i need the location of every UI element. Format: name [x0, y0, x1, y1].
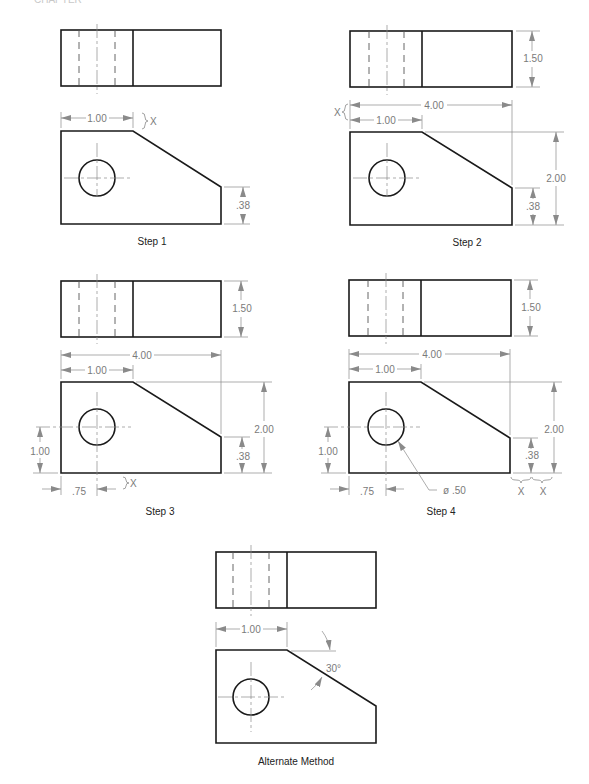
dim-hole-offset: .75: [360, 486, 374, 497]
panel-step1: 1.00 X .38 Step 1: [61, 24, 250, 247]
x-label-2: X: [540, 486, 547, 497]
x-label: X: [130, 478, 137, 489]
panel-alternate: 1.00 30° Alternate Method: [216, 545, 376, 767]
top-view: [61, 24, 221, 94]
x-label: X: [150, 116, 157, 127]
dim-overall-height: 2.00: [546, 173, 566, 184]
caption-step1: Step 1: [138, 236, 167, 247]
dim-width-top: 1.00: [241, 624, 261, 635]
dim-overall-width: 4.00: [422, 349, 442, 360]
dim-right-height: .38: [236, 200, 250, 211]
dim-hole-height: 1.00: [30, 446, 50, 457]
top-view: [350, 25, 512, 95]
panel-step3: 1.50 4.00 1.00 2.00 .38: [30, 274, 274, 517]
drawing-canvas: 1.00 X .38 Step 1: [0, 0, 589, 784]
top-view: [61, 274, 221, 344]
caption-step2: Step 2: [453, 237, 482, 248]
dim-width-top: 1.00: [87, 113, 107, 124]
front-view: [324, 382, 510, 496]
front-view: [216, 650, 376, 743]
dimensions: 1.50 4.00 1.00 2.00 .38: [30, 281, 274, 497]
dim-hole-height: 1.00: [318, 446, 338, 457]
dim-overall-width: 4.00: [424, 100, 444, 111]
x-label-1: X: [518, 486, 525, 497]
dimensions: 1.50 4.00 1.00 2.00 .38: [318, 280, 564, 497]
top-view: [216, 545, 376, 616]
panel-step2: 1.50 4.00 1.00 X 2.00 .38: [334, 25, 566, 248]
panel-step4: 1.50 4.00 1.00 2.00 .38: [318, 273, 564, 517]
caption-step4: Step 4: [427, 506, 456, 517]
dim-angle: 30°: [326, 663, 341, 674]
dim-right-height: .38: [525, 450, 539, 461]
dim-width-top: 1.00: [87, 365, 107, 376]
top-view: [349, 273, 511, 344]
dim-depth: 1.50: [523, 53, 543, 64]
caption-step3: Step 3: [146, 506, 175, 517]
dim-width-top: 1.00: [376, 115, 396, 126]
dimensions: 1.00 X .38: [61, 112, 250, 224]
dim-overall-height: 2.00: [544, 424, 564, 435]
dim-hole-diameter: ø .50: [443, 485, 466, 496]
dim-right-height: .38: [526, 201, 540, 212]
x-label: X: [334, 107, 341, 118]
dim-hole-offset: .75: [72, 486, 86, 497]
front-view: [36, 382, 221, 496]
dim-depth: 1.50: [232, 303, 252, 314]
dimensions: 1.00 30°: [216, 622, 341, 690]
front-view: [350, 132, 512, 225]
front-view: [61, 131, 221, 224]
dim-right-height: .38: [236, 451, 250, 462]
caption-alternate: Alternate Method: [258, 756, 334, 767]
dim-overall-width: 4.00: [132, 350, 152, 361]
dim-depth: 1.50: [521, 302, 541, 313]
dim-width-top: 1.00: [375, 364, 395, 375]
dim-overall-height: 2.00: [254, 424, 274, 435]
